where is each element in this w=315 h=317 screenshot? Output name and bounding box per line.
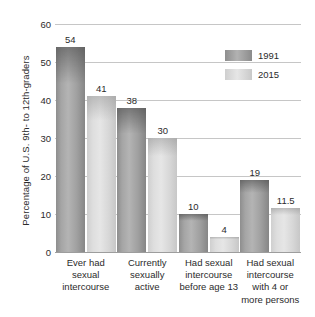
chart-legend: 19912015 — [225, 48, 303, 86]
x-axis-category-label: Currentlysexuallyactive — [114, 257, 182, 294]
y-axis-tick-label: 10 — [40, 209, 51, 220]
x-axis-category-label: Had sexualintercoursewith 4 ormore perso… — [237, 257, 305, 306]
legend-swatch — [225, 50, 252, 61]
bar: 10 — [179, 214, 208, 252]
bar-chart: Percentage of U.S. 9th- to 12th-graders … — [0, 0, 315, 317]
bar: 41 — [87, 96, 116, 252]
bar-value-label: 30 — [157, 125, 168, 136]
y-axis-tick-label: 50 — [40, 57, 51, 68]
legend-swatch — [225, 69, 252, 80]
bar-group: 3830 — [117, 24, 179, 252]
bar: 54 — [56, 47, 85, 252]
bar-value-label: 54 — [65, 34, 76, 45]
legend-label: 1991 — [258, 50, 279, 61]
y-axis-tick-label: 30 — [40, 133, 51, 144]
bar-value-label: 10 — [188, 201, 199, 212]
bar-group: 5441 — [55, 24, 117, 252]
x-axis-category-labels: Ever hadsexualintercourseCurrentlysexual… — [55, 257, 301, 315]
legend-label: 2015 — [258, 69, 279, 80]
bar: 38 — [117, 108, 146, 252]
bar-value-label: 11.5 — [277, 195, 295, 206]
y-axis-tick-label: 20 — [40, 171, 51, 182]
bar: 19 — [240, 180, 269, 252]
bar-value-label: 19 — [249, 167, 260, 178]
y-axis-tick-label: 40 — [40, 95, 51, 106]
legend-item: 1991 — [225, 48, 303, 62]
bar: 11.5 — [271, 208, 300, 252]
y-axis-tick-label: 0 — [46, 247, 51, 258]
bar-value-label: 41 — [96, 83, 107, 94]
y-axis-title: Percentage of U.S. 9th- to 12th-graders — [20, 31, 31, 251]
bar-value-label: 38 — [126, 95, 137, 106]
axis-baseline — [55, 252, 301, 253]
x-axis-category-label: Had sexualintercoursebefore age 13 — [175, 257, 243, 294]
x-axis-category-label: Ever hadsexualintercourse — [52, 257, 120, 294]
y-axis-tick-label: 60 — [40, 19, 51, 30]
bar-value-label: 4 — [222, 224, 227, 235]
bar: 30 — [148, 138, 177, 252]
legend-item: 2015 — [225, 67, 303, 81]
bar: 4 — [210, 237, 239, 252]
